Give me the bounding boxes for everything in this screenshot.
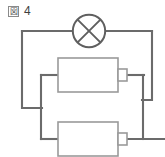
circuit-diagram [0, 0, 165, 157]
appliance-lower-body [58, 122, 118, 156]
appliance-upper-body [58, 58, 118, 92]
appliance-upper-terminal [118, 69, 127, 81]
appliance-upper [58, 58, 127, 92]
appliance-lower [58, 122, 127, 156]
appliance-lower-terminal [118, 133, 127, 145]
lamp-symbol [73, 15, 105, 47]
figure-container: 図 4 [0, 0, 165, 157]
